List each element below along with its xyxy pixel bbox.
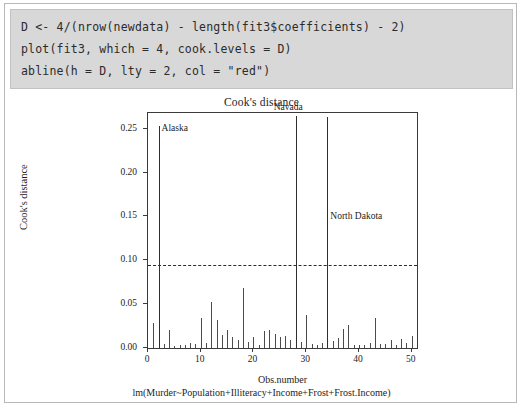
spike-obs-29 [301,342,302,348]
y-tick-label-1: 0.05 [107,298,137,308]
x-axis-title: Obs.number [147,374,418,385]
spike-obs-27 [290,340,291,348]
spike-obs-15 [227,330,228,348]
spike-obs-31 [312,344,313,348]
y-tick-label-0: 0.00 [107,342,137,352]
code-line-2: plot(fit3, which = 4, cook.levels = D) [21,38,502,60]
spike-obs-36 [338,338,339,348]
spike-obs-11 [206,343,207,348]
point-label-navada: Navada [274,102,303,112]
spike-obs-2 [159,126,160,348]
y-tick-label-5: 0.25 [107,123,137,133]
cook-level-threshold-line [148,265,417,266]
spike-obs-3 [164,344,165,348]
spike-obs-19 [248,342,249,348]
page-frame: D <- 4/(nrow(newdata) - length(fit3$coef… [4,3,517,403]
spike-obs-40 [359,345,360,348]
spike-obs-48 [401,339,402,348]
y-tick-mark-1 [143,303,147,304]
x-tick-label-0: 0 [145,354,150,364]
spike-obs-5 [174,346,175,348]
x-tick-mark-4 [358,348,359,352]
spike-obs-46 [391,340,392,348]
spike-obs-22 [264,331,265,348]
spike-obs-9 [195,344,196,348]
spike-obs-17 [238,340,239,348]
spike-obs-10 [201,318,202,348]
x-tick-label-1: 10 [195,354,205,364]
spike-obs-33 [322,343,323,348]
spike-obs-7 [185,345,186,349]
point-label-alaska: Alaska [162,123,188,133]
x-tick-mark-2 [252,348,253,352]
plot-title: Cook's distance [10,96,513,108]
spike-obs-42 [370,343,371,348]
plot-panel: AlaskaNavadaNorth Dakota [147,112,418,349]
spike-obs-24 [275,334,276,348]
spike-obs-6 [180,345,181,349]
spike-obs-35 [333,341,334,348]
spike-obs-49 [406,343,407,348]
spike-obs-18 [243,288,244,348]
spike-obs-37 [343,329,344,348]
y-axis-title: Cook's distance [18,164,29,230]
spike-obs-43 [375,318,376,348]
spike-obs-50 [412,336,413,348]
point-label-north-dakota: North Dakota [330,211,382,221]
spike-obs-39 [354,345,355,349]
x-tick-label-5: 50 [406,354,416,364]
spike-obs-28 [296,116,297,348]
x-tick-label-3: 30 [300,354,310,364]
spike-obs-14 [222,335,223,348]
code-block: D <- 4/(nrow(newdata) - length(fit3$coef… [10,9,513,89]
spike-obs-13 [217,320,218,348]
spike-obs-45 [385,344,386,348]
spike-obs-12 [211,302,212,348]
spike-obs-16 [232,337,233,348]
plot-data-area: AlaskaNavadaNorth Dakota [148,113,417,348]
spike-obs-44 [380,344,381,348]
spike-obs-20 [253,337,254,348]
spike-obs-34 [327,117,328,348]
plot-subtitle: lm(Murder~Population+Illiteracy+Income+F… [10,387,513,398]
y-tick-mark-4 [143,172,147,173]
spike-obs-26 [285,336,286,348]
x-tick-label-4: 40 [353,354,363,364]
spike-obs-4 [169,330,170,348]
y-tick-label-3: 0.15 [107,210,137,220]
cooks-distance-plot: Cook's distance Cook's distance AlaskaNa… [10,92,513,402]
y-tick-label-4: 0.20 [107,167,137,177]
x-tick-label-2: 20 [248,354,258,364]
code-line-3: abline(h = D, lty = 2, col = "red") [21,60,502,82]
y-tick-mark-2 [143,259,147,260]
spike-obs-47 [396,345,397,349]
spike-obs-38 [348,325,349,348]
spike-obs-8 [190,343,191,348]
spike-obs-23 [269,330,270,348]
code-line-1: D <- 4/(nrow(newdata) - length(fit3$coef… [21,16,502,38]
spike-obs-21 [259,345,260,349]
x-tick-mark-3 [305,348,306,352]
spike-obs-30 [306,315,307,348]
x-tick-mark-1 [200,348,201,352]
spike-obs-1 [153,323,154,348]
spike-obs-32 [317,345,318,348]
y-tick-label-2: 0.10 [107,254,137,264]
x-tick-mark-5 [411,348,412,352]
spike-obs-41 [364,345,365,348]
y-tick-mark-5 [143,128,147,129]
y-tick-mark-3 [143,215,147,216]
x-tick-mark-0 [147,348,148,352]
spike-obs-25 [280,337,281,348]
